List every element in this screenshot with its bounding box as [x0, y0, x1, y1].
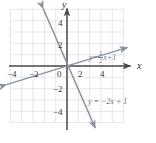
equation-label-line2: y = −2x + 1 — [88, 97, 127, 106]
x-axis-label: x — [137, 61, 141, 71]
y-tick-minus-4: −4 — [53, 108, 63, 117]
y-tick-4: 4 — [58, 19, 63, 28]
graph-figure: x y −4 −2 0 2 4 4 2 −2 −4 y=12x+1 y = −2… — [0, 0, 156, 143]
y-axis-label: y — [62, 0, 66, 10]
x-tick-4: 4 — [100, 70, 105, 79]
eq1-constant: 1 — [112, 53, 116, 62]
x-tick-0: 0 — [57, 70, 62, 79]
x-tick-minus-2: −2 — [29, 70, 39, 79]
eq1-equals: = — [93, 53, 98, 62]
y-tick-2: 2 — [58, 41, 63, 50]
x-tick-2: 2 — [78, 70, 83, 79]
x-tick-minus-4: −4 — [7, 70, 17, 79]
y-tick-minus-2: −2 — [53, 85, 63, 94]
equation-label-line1: y=12x+1 — [89, 50, 116, 65]
line-y-minus-2x-plus-1 — [43, 9, 95, 128]
